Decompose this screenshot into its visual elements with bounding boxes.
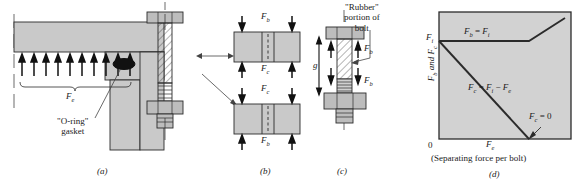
panel-a-label: (a) bbox=[97, 166, 108, 176]
panel-c-label: (c) bbox=[337, 166, 347, 176]
panel-b-top-block-lower-force: Fc bbox=[261, 64, 269, 75]
chart-curve-label-clamp-force: Fc = Fi − Fe bbox=[468, 83, 511, 94]
rubber-portion-annotation: "Rubber" portion of bolt bbox=[344, 2, 380, 33]
figure-bolted-joint-diagram: Fe "O-ring" gasket (a) bbox=[0, 0, 581, 185]
panel-b-top-block-upper-force: Fb bbox=[261, 12, 270, 23]
chart-y-tick-label-fi: Fi bbox=[426, 33, 433, 44]
panel-b: Fb Fc Fc Fb (b) bbox=[196, 0, 316, 185]
chart-curve-label-bolt-force: Fb = Fi bbox=[464, 27, 490, 38]
o-ring-annotation-line1: "O-ring" bbox=[57, 116, 88, 126]
panel-b-bottom-block-upper-force: Fc bbox=[261, 84, 269, 95]
rubber-annotation-line1: "Rubber" bbox=[344, 2, 380, 12]
chart-annotation-fc-zero: Fc = 0 bbox=[529, 112, 551, 123]
panel-a: Fe "O-ring" gasket (a) bbox=[0, 0, 196, 185]
panel-c: "Rubber" portion of bolt g Fb Fb (c) bbox=[312, 0, 417, 185]
panel-a-force-label: Fe bbox=[66, 92, 74, 103]
panel-c-force-upper: Fb bbox=[364, 44, 373, 55]
o-ring-annotation-line2: gasket bbox=[57, 126, 88, 136]
chart-x-axis-caption: (Separating force per bolt) bbox=[431, 153, 526, 163]
o-ring-gasket-annotation: "O-ring" gasket bbox=[57, 116, 88, 137]
panel-d-chart: Fb and Fc Fi Fb = Fi Fc = Fi − Fe Fc = 0… bbox=[417, 0, 581, 185]
rubber-annotation-line2: portion of bbox=[344, 12, 380, 22]
rubber-annotation-line3: bolt bbox=[344, 23, 380, 33]
panel-b-label: (b) bbox=[260, 166, 271, 176]
chart-x-axis-symbol: Fe bbox=[486, 140, 494, 151]
panel-b-drawing bbox=[196, 0, 316, 160]
grip-dimension-label: g bbox=[313, 61, 318, 70]
panel-b-bottom-block-lower-force: Fb bbox=[261, 136, 270, 147]
chart-origin-label: 0 bbox=[428, 140, 433, 150]
panel-d-label: (d) bbox=[489, 169, 500, 179]
panel-a-drawing bbox=[0, 0, 196, 160]
panel-c-force-lower: Fb bbox=[364, 76, 373, 87]
